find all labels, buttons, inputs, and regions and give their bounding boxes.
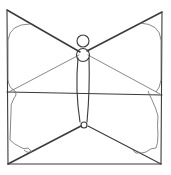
lower-right-diagonal	[88, 126, 161, 164]
frame-right-edge	[161, 12, 162, 164]
right-hindwing-outline	[137, 91, 158, 153]
upper-right-lower-diagonal	[88, 55, 160, 94]
upper-left-diagonal	[7, 10, 80, 52]
right-forewing-outline	[140, 23, 161, 92]
left-hindwing-outline	[10, 90, 32, 152]
wing-divider-line	[7, 92, 162, 95]
tail-knot-circle	[81, 122, 87, 128]
lower-left-diagonal	[8, 126, 81, 164]
butterfly-sketch	[0, 0, 171, 175]
upper-left-lower-diagonal	[9, 55, 79, 92]
frame-left-edge	[7, 10, 8, 164]
upper-right-diagonal	[87, 12, 162, 51]
head-circle	[77, 35, 89, 47]
left-forewing-outline	[8, 24, 30, 90]
abdomen-outline	[77, 58, 89, 122]
sketch-svg	[0, 0, 171, 175]
